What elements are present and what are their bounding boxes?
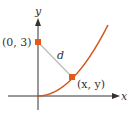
distance-label: d	[57, 49, 64, 62]
diagram-canvas: y x (0, 3) (x, y) d	[0, 0, 128, 120]
point-x-y	[69, 74, 75, 80]
distance-segment	[38, 42, 72, 77]
y-axis-label: y	[34, 5, 42, 18]
y-axis-arrow-icon	[35, 18, 41, 26]
x-axis-label: x	[121, 90, 128, 103]
point-label-x-y: (x, y)	[77, 78, 105, 91]
point-label-0-3: (0, 3)	[2, 36, 32, 49]
point-0-3	[35, 39, 41, 45]
x-axis-arrow-icon	[112, 93, 120, 99]
x-axis	[8, 93, 120, 99]
